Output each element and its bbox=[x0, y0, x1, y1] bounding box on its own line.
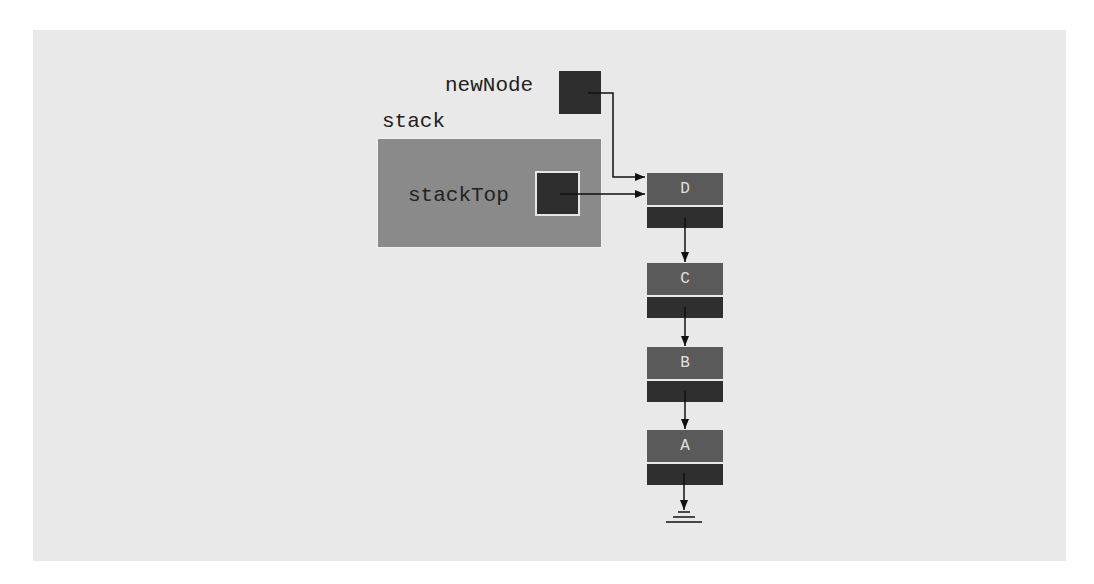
ground-null-icon bbox=[666, 473, 702, 522]
arrows-layer bbox=[0, 0, 1094, 584]
new-node-arrow bbox=[588, 93, 645, 177]
